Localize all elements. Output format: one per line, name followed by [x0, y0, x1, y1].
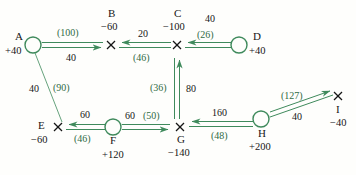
node-supply-G: −140 — [168, 148, 190, 159]
edge-cost-H-I: (127) — [281, 91, 303, 101]
edge-cost-G-C: (36) — [150, 83, 167, 93]
node-marker-I — [334, 92, 342, 100]
node-marker-G — [176, 123, 184, 131]
edge-G-C — [175, 58, 180, 119]
network-flow-diagram: A +40 B −60 C −100 D +40 E −60 F +120 G … — [0, 0, 356, 175]
edge-F-E — [66, 125, 105, 130]
node-marker-A — [25, 37, 41, 53]
node-supply-F: +120 — [102, 150, 124, 161]
node-supply-A: +40 — [5, 46, 21, 57]
node-label-A: A — [15, 31, 23, 42]
node-supply-D: +40 — [249, 46, 265, 57]
edge-flow-F-G: 60 — [125, 111, 135, 121]
node-marker-D — [231, 37, 247, 53]
edge-flow-C-B: 20 — [138, 29, 148, 39]
edge-D-C — [185, 43, 231, 48]
node-label-H: H — [258, 128, 266, 139]
node-label-E: E — [38, 120, 45, 131]
node-supply-B: −60 — [101, 22, 117, 33]
edge-cost-A-E: (90) — [53, 83, 70, 93]
edge-cost-D-C: (26) — [197, 30, 214, 40]
node-label-B: B — [108, 8, 115, 19]
node-marker-B — [107, 41, 115, 49]
node-supply-E: −60 — [31, 135, 47, 146]
edge-cost-A-B: (100) — [57, 28, 79, 38]
edge-cost-H-G: (48) — [211, 131, 228, 141]
edge-flow-A-B: 40 — [66, 53, 76, 63]
node-label-F: F — [110, 135, 116, 146]
node-supply-H: +200 — [249, 142, 271, 153]
node-label-G: G — [177, 134, 185, 145]
edge-flow-H-G: 160 — [212, 108, 227, 118]
node-marker-C — [173, 41, 181, 49]
node-marker-F — [105, 119, 121, 135]
node-marker-E — [54, 123, 62, 131]
edge-cost-F-E: (46) — [74, 134, 91, 144]
node-supply-C: −100 — [163, 22, 185, 33]
edge-H-G — [189, 122, 253, 127]
edge-flow-H-I: 40 — [292, 112, 302, 122]
edge-flow-D-C: 40 — [205, 14, 215, 24]
edge-A-B — [42, 43, 103, 48]
edge-flow-A-E: 40 — [29, 84, 39, 94]
edge-flow-G-C: 80 — [186, 84, 196, 94]
node-label-D: D — [253, 31, 261, 42]
edge-cost-F-G: (50) — [143, 111, 160, 121]
edge-cost-C-B: (46) — [133, 53, 150, 63]
edge-flow-F-E: 60 — [80, 110, 90, 120]
edge-C-B — [119, 43, 171, 48]
node-marker-H — [253, 111, 269, 127]
edge-F-G — [122, 125, 170, 130]
node-supply-I: −40 — [330, 118, 346, 129]
node-label-C: C — [174, 8, 181, 19]
node-label-I: I — [336, 104, 340, 115]
